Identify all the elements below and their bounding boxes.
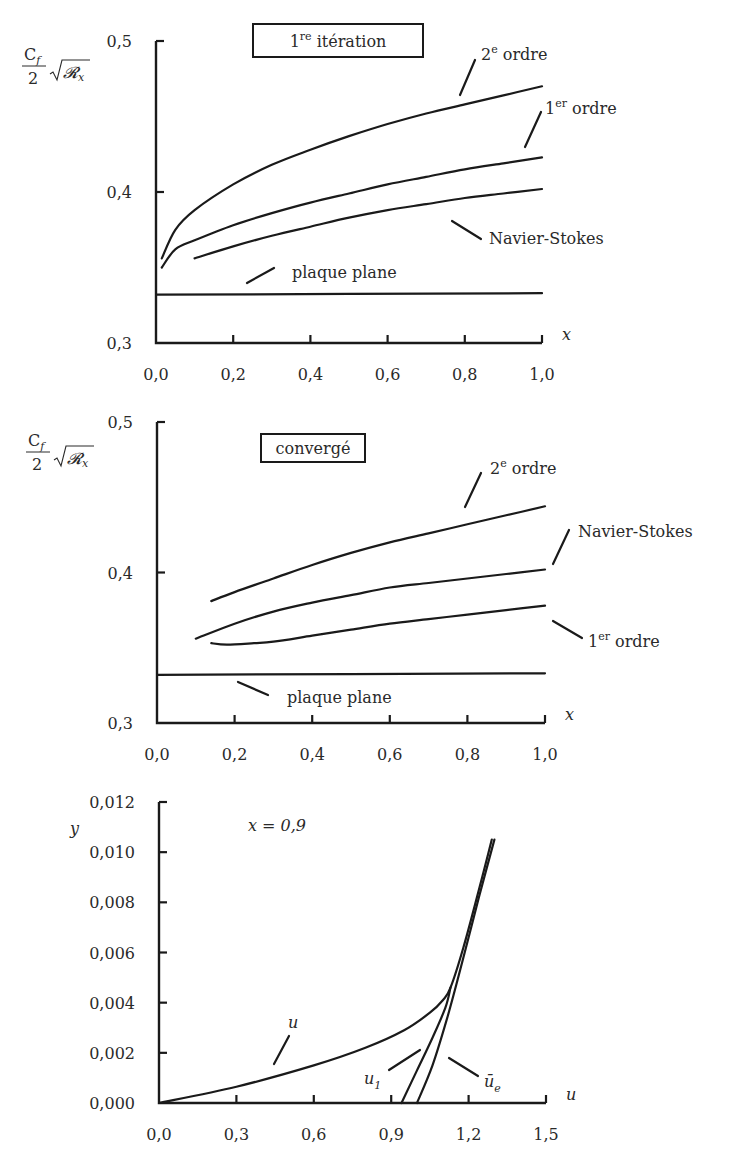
label-u1: u1 [364, 1069, 381, 1092]
x-tick-label: 0,8 [455, 745, 480, 764]
label-1er-ordre: 1er ordre [588, 630, 660, 651]
x-tick-label: 0,4 [298, 365, 323, 384]
y-tick-label: 0,4 [107, 183, 132, 202]
y-tick-label: 0,3 [107, 334, 132, 353]
x-tick-label: 0,2 [222, 745, 247, 764]
x-tick-label: 1,0 [532, 745, 557, 764]
y-tick-label: 0,006 [89, 944, 135, 963]
series-1er-ordre [211, 606, 545, 645]
label-1er-ordre: 1er ordre [545, 97, 617, 118]
ylabel-radicand: 𝓡x [67, 449, 89, 470]
label-2e-ordre: 2e ordre [490, 457, 556, 478]
y-tick-label: 0,010 [89, 843, 135, 862]
x-tick-label: 0,0 [146, 1125, 171, 1144]
label-plaque-plane: plaque plane [292, 263, 397, 282]
ylabel-radicand: 𝓡x [63, 63, 85, 84]
y-tick-label: 0,000 [89, 1094, 135, 1113]
series-u [159, 840, 492, 1103]
series-2e-ordre [211, 506, 545, 601]
leader-line [465, 473, 481, 507]
x-tick-label: 0,6 [377, 745, 402, 764]
chart-annotation: x = 0,9 [248, 816, 306, 835]
series-2e-ordre [162, 86, 542, 258]
series-plaque-plane [157, 673, 545, 675]
x-tick-label: 1,2 [456, 1125, 481, 1144]
x-tick-label: 0,0 [143, 365, 168, 384]
x-tick-label: 0,0 [144, 745, 169, 764]
label-navier-stokes: Navier-Stokes [578, 522, 693, 541]
leader-line [389, 1050, 420, 1070]
x-tick-label: 1,5 [533, 1125, 558, 1144]
label-u: u [288, 1013, 298, 1032]
label-plaque-plane: plaque plane [287, 688, 392, 707]
axes [157, 422, 545, 723]
chart-title: convergé [276, 439, 351, 458]
leader-line [247, 268, 274, 283]
ylabel-denominator: 2 [28, 69, 38, 88]
axes [159, 802, 546, 1103]
x-tick-label: 0,6 [375, 365, 400, 384]
ylabel-numerator: Cf [24, 45, 42, 67]
axes [156, 41, 542, 343]
y-tick-label: 0,5 [107, 32, 132, 51]
chart-title: 1re itération [290, 30, 387, 51]
y-tick-label: 0,004 [89, 994, 135, 1013]
series-u₁ [402, 988, 451, 1103]
leader-line [460, 60, 475, 95]
y-tick-label: 0,3 [108, 714, 133, 733]
x-tick-label: 0,9 [378, 1125, 403, 1144]
leader-line [449, 1058, 478, 1076]
leader-line [525, 112, 541, 147]
series-navier-stokes [196, 570, 545, 639]
x-axis-label: x [562, 325, 571, 344]
series-plaque-plane [156, 293, 542, 295]
y-axis-label: y [69, 819, 80, 838]
x-tick-label: 0,6 [301, 1125, 326, 1144]
x-tick-label: 0,4 [299, 745, 324, 764]
label-ue-bar: ūe [484, 1072, 501, 1095]
leader-line [553, 621, 582, 638]
y-tick-label: 0,012 [89, 793, 135, 812]
y-tick-label: 0,4 [108, 564, 133, 583]
label-2e-ordre: 2e ordre [481, 43, 547, 64]
y-tick-label: 0,008 [89, 893, 135, 912]
figure: 0,30,40,50,00,20,40,60,81,0xCf2𝓡x1re ité… [0, 0, 736, 1168]
label-navier-stokes: Navier-Stokes [489, 229, 604, 248]
leader-line [553, 530, 569, 564]
x-axis-label: x [565, 705, 574, 724]
chart-1re-iteration: 0,30,40,50,00,20,40,60,81,0xCf2𝓡x1re ité… [22, 24, 617, 384]
y-tick-label: 0,002 [89, 1044, 135, 1063]
ylabel-denominator: 2 [32, 455, 42, 474]
leader-line [274, 1036, 289, 1064]
x-tick-label: 0,2 [220, 365, 245, 384]
leader-line [452, 221, 481, 239]
x-tick-label: 1,0 [529, 365, 554, 384]
x-axis-label: u [566, 1085, 576, 1104]
y-tick-label: 0,5 [108, 413, 133, 432]
chart-converge: 0,30,40,50,00,20,40,60,81,0xCf2𝓡xconverg… [26, 413, 693, 764]
leader-line [238, 682, 268, 695]
ylabel-numerator: Cf [28, 431, 46, 453]
x-tick-label: 0,3 [224, 1125, 249, 1144]
x-tick-label: 0,8 [452, 365, 477, 384]
chart-velocity-profile: 0,0000,0020,0040,0060,0080,0100,0120,00,… [69, 793, 576, 1144]
